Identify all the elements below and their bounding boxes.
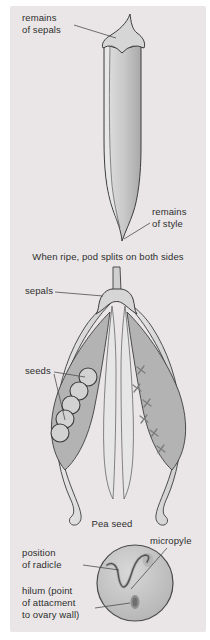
seed xyxy=(51,424,69,442)
pointer-sepals xyxy=(55,292,103,296)
label-position-of-radicle: position of radicle xyxy=(22,547,62,571)
label-micropyle: micropyle xyxy=(150,535,192,547)
label-hilum: hilum (point of attacment to ovary wall) xyxy=(22,585,79,621)
title-pea-seed: Pea seed xyxy=(27,518,197,530)
intact-pod-figure xyxy=(102,14,144,241)
split-pod-figure xyxy=(51,267,186,525)
hilum-spot-core xyxy=(133,597,138,606)
sepals-crown xyxy=(96,289,137,314)
botany-diagram-page: remains of sepals remains of style When … xyxy=(0,0,210,640)
pea-seed-figure xyxy=(97,545,173,621)
label-seeds: seeds xyxy=(25,365,51,377)
label-remains-of-sepals: remains of sepals xyxy=(22,12,61,36)
pointer-remains-of-sepals xyxy=(74,25,116,38)
label-remains-of-style: remains of style xyxy=(152,206,187,230)
pea-seed-circle xyxy=(97,545,173,621)
caption-pod-splits: When ripe, pod splits on both sides xyxy=(10,251,206,263)
label-sepals: sepals xyxy=(25,285,53,297)
